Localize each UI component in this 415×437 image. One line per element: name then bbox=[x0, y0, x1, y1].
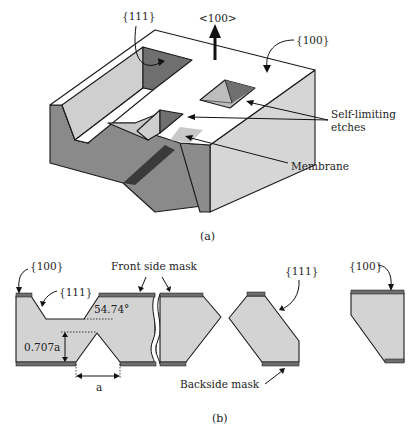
label-width: a bbox=[96, 381, 102, 393]
back-mask-2 bbox=[120, 362, 156, 366]
label-self-limiting: Self-limiting bbox=[331, 108, 396, 120]
front-mask-pointer-1 bbox=[141, 277, 146, 289]
caption-b: (b) bbox=[212, 412, 228, 425]
front-mask-4 bbox=[247, 292, 265, 296]
label-100-left: {100} bbox=[30, 260, 63, 273]
plane-111-left-pointer bbox=[43, 291, 57, 303]
section-4-body bbox=[351, 293, 404, 362]
label-111-right: {111} bbox=[285, 265, 318, 278]
diagram-canvas: {111} <100> {100} Self-limiting etches M… bbox=[0, 0, 415, 437]
figure-a-block: {111} <100> {100} Self-limiting etches M… bbox=[50, 10, 396, 243]
caption-a: (a) bbox=[200, 230, 215, 243]
label-direction-100: <100> bbox=[199, 12, 237, 24]
front-mask-pointer-2 bbox=[162, 277, 169, 289]
front-mask-2 bbox=[99, 293, 155, 297]
front-mask-5 bbox=[351, 290, 404, 294]
label-100-right: {100} bbox=[349, 260, 382, 273]
label-membrane: Membrane bbox=[291, 160, 349, 172]
label-backside-mask: Backside mask bbox=[180, 378, 260, 390]
label-front-side-mask: Front side mask bbox=[111, 260, 198, 272]
label-etches: etches bbox=[331, 121, 366, 133]
front-mask-1 bbox=[16, 293, 32, 297]
front-mask-3 bbox=[160, 293, 203, 297]
direction-arrow-head-icon bbox=[209, 24, 221, 38]
figure-b-sections: {100} {111} Front side mask 54.74° 0.707… bbox=[16, 260, 404, 425]
label-111: {111} bbox=[122, 10, 155, 23]
label-100: {100} bbox=[296, 34, 329, 47]
backside-mask-pointer bbox=[265, 371, 282, 384]
section-2-body bbox=[160, 296, 221, 362]
plane-100-left-pointer bbox=[19, 269, 28, 290]
back-mask-1 bbox=[16, 362, 76, 366]
label-angle: 54.74° bbox=[94, 303, 129, 315]
back-mask-5 bbox=[385, 359, 404, 363]
back-mask-3 bbox=[160, 362, 186, 366]
section-3-body bbox=[229, 296, 299, 362]
label-depth: 0.707a bbox=[24, 341, 60, 353]
label-111-left: {111} bbox=[59, 286, 92, 299]
back-mask-4 bbox=[262, 362, 299, 366]
plane-111-right-pointer bbox=[284, 280, 299, 308]
